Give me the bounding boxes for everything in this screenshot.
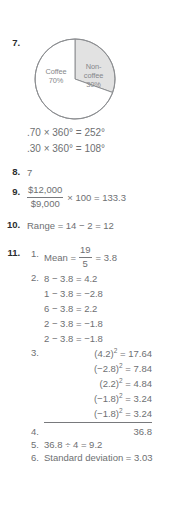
deviation-row: 8 − 3.8 = 4.2 bbox=[44, 271, 103, 286]
answer-value-9: $12,000 $9,000 × 100 = 133.3 bbox=[27, 184, 126, 210]
step-4-number: 4. bbox=[27, 425, 39, 438]
square-row: (−1.8)2 = 3.24 bbox=[44, 406, 152, 423]
square-row: (−1.8)2 = 3.24 bbox=[44, 391, 152, 406]
step-6-body: Standard deviation = 3.03 bbox=[44, 451, 153, 464]
fraction-dollars: $12,000 $9,000 bbox=[27, 184, 63, 210]
square-result: = 3.24 bbox=[125, 408, 152, 419]
square-base: (4.2) bbox=[94, 348, 114, 359]
square-base: (−2.8) bbox=[94, 363, 119, 374]
square-exponent: 2 bbox=[119, 407, 123, 414]
step-6-number: 6. bbox=[27, 451, 39, 464]
step-1-body: Mean = 19 5 = 3.8 bbox=[44, 244, 117, 270]
answer-item-11: 11. 1. Mean = 19 5 = 3.8 2. 8 − 3.8 = 4 bbox=[0, 247, 177, 464]
square-row: (2.2)2 = 4.84 bbox=[44, 376, 152, 391]
step-2-body: 8 − 3.8 = 4.2 1 − 3.8 = −2.8 6 − 3.8 = 2… bbox=[44, 271, 103, 346]
step-5-body: 36.8 ÷ 4 = 9.2 bbox=[44, 438, 102, 451]
answer-number-9: 9. bbox=[0, 186, 20, 198]
answer-number-7: 7. bbox=[0, 37, 20, 49]
square-exponent: 2 bbox=[119, 392, 123, 399]
answer-key-page: 7. Coffee 70% Non- coffee 30% bbox=[0, 0, 178, 526]
answer-value-10: Range = 14 − 2 = 12 bbox=[27, 219, 114, 232]
deviation-row: 2 − 3.8 = −1.8 bbox=[44, 316, 103, 331]
fraction-mean-denominator: 5 bbox=[82, 258, 89, 271]
step-1-number: 1. bbox=[27, 247, 39, 260]
pie-chart: Coffee 70% Non- coffee 30% bbox=[33, 37, 117, 121]
fraction-mean: 19 5 bbox=[79, 244, 92, 270]
step-1: 1. Mean = 19 5 = 3.8 bbox=[27, 247, 177, 271]
square-row: (4.2)2 = 17.64 bbox=[44, 346, 152, 361]
pie-chart-svg bbox=[33, 37, 117, 121]
square-exponent: 2 bbox=[114, 347, 118, 354]
fraction-tail: × 100 = 133.3 bbox=[67, 191, 126, 204]
answer-steps-11: 1. Mean = 19 5 = 3.8 2. 8 − 3.8 = 4.2 1 … bbox=[27, 247, 177, 464]
fraction-mean-tail: = 3.8 bbox=[96, 251, 117, 264]
square-result: = 7.84 bbox=[125, 363, 152, 374]
fraction-denominator: $9,000 bbox=[30, 198, 61, 211]
answer-body-7: Coffee 70% Non- coffee 30% bbox=[27, 37, 117, 121]
step-2: 2. 8 − 3.8 = 4.2 1 − 3.8 = −2.8 6 − 3.8 … bbox=[27, 271, 177, 346]
square-row: (−2.8)2 = 7.84 bbox=[44, 361, 152, 376]
step-2-number: 2. bbox=[27, 271, 39, 284]
deviation-row: 6 − 3.8 = 2.2 bbox=[44, 301, 103, 316]
answer-item-10: 10. Range = 14 − 2 = 12 bbox=[0, 219, 114, 232]
square-result: = 3.24 bbox=[125, 393, 152, 404]
square-base: (−1.8) bbox=[94, 408, 119, 419]
deviation-row: 2 − 3.8 = −1.8 bbox=[44, 331, 103, 346]
answer-value-8: 7 bbox=[27, 166, 32, 179]
deviation-row: 1 − 3.8 = −2.8 bbox=[44, 286, 103, 301]
answer-number-11: 11. bbox=[0, 247, 20, 259]
step-1-lead: Mean = bbox=[44, 251, 76, 264]
pie-equation-coffee: .70 × 360° = 252° bbox=[27, 125, 105, 141]
square-base: (2.2) bbox=[100, 378, 120, 389]
step-5: 5. 36.8 ÷ 4 = 9.2 bbox=[27, 438, 177, 451]
square-base: (−1.8) bbox=[94, 393, 119, 404]
answer-number-10: 10. bbox=[0, 219, 20, 231]
step-4: 4. 36.8 bbox=[27, 425, 177, 438]
pie-equation-non-coffee: .30 × 360° = 108° bbox=[27, 141, 105, 157]
squares-total: 36.8 bbox=[44, 425, 152, 438]
answer-item-7: 7. Coffee 70% Non- coffee 30% bbox=[0, 37, 117, 121]
step-6: 6. Standard deviation = 3.03 bbox=[27, 451, 177, 464]
step-3: 3. (4.2)2 = 17.64 (−2.8)2 = 7.84 (2.2)2 … bbox=[27, 346, 177, 423]
square-exponent: 2 bbox=[119, 362, 123, 369]
step-4-body: 36.8 bbox=[44, 425, 152, 438]
pie-equations: .70 × 360° = 252° .30 × 360° = 108° bbox=[27, 125, 105, 156]
step-5-number: 5. bbox=[27, 438, 39, 451]
square-exponent: 2 bbox=[119, 377, 123, 384]
square-result: = 17.64 bbox=[120, 348, 152, 359]
square-result: = 4.84 bbox=[125, 378, 152, 389]
answer-number-8: 8. bbox=[0, 166, 20, 178]
answer-item-8: 8. 7 bbox=[0, 166, 32, 179]
fraction-mean-numerator: 19 bbox=[79, 244, 92, 258]
answer-item-9: 9. $12,000 $9,000 × 100 = 133.3 bbox=[0, 186, 126, 210]
step-3-body: (4.2)2 = 17.64 (−2.8)2 = 7.84 (2.2)2 = 4… bbox=[44, 346, 152, 423]
step-3-number: 3. bbox=[27, 346, 39, 359]
fraction-numerator: $12,000 bbox=[27, 184, 63, 198]
